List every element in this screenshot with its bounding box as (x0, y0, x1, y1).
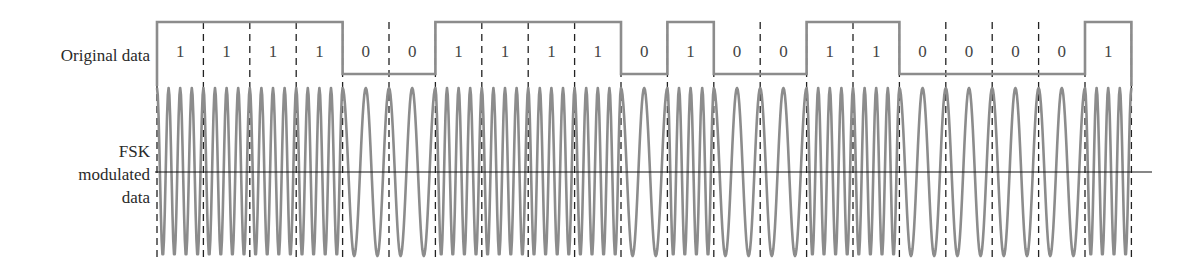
bit-label: 1 (547, 42, 556, 61)
fsk-label-line-3: data (78, 186, 150, 209)
fsk-modulated-data-label: FSK modulated data (78, 140, 150, 209)
bit-label: 0 (1011, 42, 1020, 61)
bit-label: 1 (686, 42, 695, 61)
bit-label: 1 (176, 42, 185, 61)
bit-label: 1 (594, 42, 603, 61)
fsk-label-line-2: modulated (78, 163, 150, 186)
bit-label: 0 (965, 42, 974, 61)
bit-label: 0 (408, 42, 417, 61)
bit-label: 1 (1104, 42, 1113, 61)
bit-label: 1 (501, 42, 510, 61)
fsk-diagram: 111100111101001100001 (0, 0, 1183, 269)
fsk-label-line-1: FSK (78, 140, 150, 163)
bit-label: 1 (826, 42, 835, 61)
bit-value-labels: 111100111101001100001 (176, 42, 1112, 61)
bit-label: 0 (918, 42, 927, 61)
bit-label: 1 (315, 42, 324, 61)
bit-label: 1 (872, 42, 881, 61)
original-data-label: Original data (61, 46, 150, 66)
bit-label: 1 (454, 42, 463, 61)
bit-label: 1 (222, 42, 231, 61)
bit-label: 0 (779, 42, 788, 61)
bit-label: 0 (733, 42, 742, 61)
bit-label: 1 (269, 42, 278, 61)
bit-label: 0 (1058, 42, 1067, 61)
bit-label: 0 (640, 42, 649, 61)
bit-label: 0 (362, 42, 371, 61)
